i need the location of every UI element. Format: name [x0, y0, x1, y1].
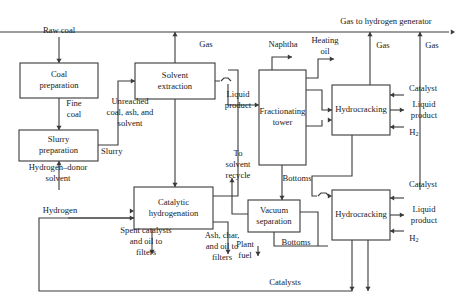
unit-label-hydrocracking-upper: Hydrocracking	[335, 104, 387, 114]
arrow-slurry-in	[131, 78, 135, 83]
arrow-heating-oil	[330, 56, 334, 61]
arrow-fine-coal	[56, 126, 61, 130]
arrow-lower-hc-in-left	[328, 193, 332, 198]
arrow-catalyst-lower	[390, 195, 394, 200]
unit-fractionating-tower: Fractionatingtower	[259, 70, 306, 165]
arrow-hydrogen-in	[130, 215, 134, 220]
stream-label-gas-lower-hydrocracker: Gas	[425, 40, 439, 50]
arrow-catalysts-down-2	[349, 287, 354, 291]
stream-label-ash-char-oil: Ash, char,and oil tofilters	[205, 230, 240, 262]
connector-upper-hc-bottom-down	[312, 135, 352, 196]
unit-vacuum-separation: Vacuumseparation	[248, 200, 300, 232]
connector-tower-side-to-upper-hc	[306, 90, 332, 110]
stream-label-h2-upper: H2	[409, 127, 418, 137]
arrow-liquid-upper	[400, 107, 404, 112]
stream-label-hydrogen: Hydrogen	[43, 205, 78, 215]
arrow-upper-hc-in-low	[328, 117, 332, 122]
arrow-gas-upper-hc	[367, 32, 372, 36]
connector-tower-heating-oil-out	[306, 59, 334, 78]
stream-label-plant-fuel: Plantfuel	[236, 238, 254, 259]
stream-label-catalyst-lower: Catalyst	[409, 179, 438, 189]
arrow-h2-upper	[390, 124, 394, 129]
arrow-plant-fuel	[255, 252, 260, 256]
arrow-liquid-to-tower	[255, 102, 259, 107]
arrow-to-hydrogenation	[172, 183, 177, 187]
stream-label-heating-oil: Heatingoil	[311, 34, 339, 55]
unit-catalytic-hydrogenation: Catalytichydrogenation	[134, 187, 213, 229]
unit-slurry-preparation: Slurrypreparation	[19, 130, 98, 161]
unit-solvent-extraction: Solventextraction	[135, 63, 215, 99]
stream-label-gas-upper-hydrocracker: Gas	[376, 40, 390, 50]
arrow-naphtha	[288, 54, 292, 59]
stream-label-unreached-coal-ash-solvent: Unreachedcoal, ash, andsolvent	[107, 96, 154, 128]
unit-label-hydrocracking-lower: Hydrocracking	[335, 209, 387, 219]
stream-label-liquid-product-lower: Liquidproduct	[411, 203, 438, 224]
connector-tower-naphtha-out	[272, 57, 292, 70]
flow-diagram-canvas: CoalpreparationSlurrypreparationSolvente…	[0, 0, 465, 304]
stream-label-liquid-product-upper: Liquidproduct	[411, 98, 438, 119]
arrow-catalysts-down	[365, 287, 370, 291]
stream-label-catalysts-bus: Catalysts	[269, 277, 301, 287]
stream-label-gas-solvent-extraction: Gas	[199, 39, 213, 49]
arrow-hydrogen-donor-in	[130, 208, 134, 213]
stream-label-h2-lower: H2	[409, 233, 418, 243]
stream-label-gas-to-hydrogen-generator: Gas to hydrogen generator	[340, 16, 432, 26]
arrow-upper-hc-in-left	[328, 107, 332, 112]
process-flow-diagram: CoalpreparationSlurrypreparationSolvente…	[0, 0, 465, 304]
unit-label-vacuum-separation: Vacuumseparation	[256, 204, 292, 225]
stream-label-spent-catalysts: Spent catalystsand oil tofilters	[120, 225, 172, 257]
stream-label-naphtha: Naphtha	[268, 39, 297, 49]
stream-label-raw-coal: Raw coal	[43, 25, 76, 35]
arrow-gas-bus-out	[451, 29, 455, 34]
stream-label-to-solvent-recycle: Tosolventrecycle	[226, 148, 251, 180]
stream-label-fine-coal: Finecoal	[66, 97, 81, 118]
arrowhead-layer	[56, 29, 455, 291]
arrow-tower-bottoms	[279, 196, 284, 200]
arrow-gas-lower-hc	[417, 32, 422, 36]
arrow-gas-extraction	[172, 32, 177, 36]
stream-label-bottoms-vacuum: Bottoms	[281, 237, 311, 247]
stream-label-catalyst-upper: Catalyst	[409, 83, 438, 93]
unit-hydrocracking-lower: Hydrocracking	[332, 190, 390, 240]
unit-hydrocracking-upper: Hydrocracking	[332, 85, 390, 135]
arrow-h2-lower	[390, 228, 394, 233]
arrow-liquid-lower	[400, 212, 404, 217]
stream-label-bottoms-tower: Bottoms	[282, 173, 312, 183]
unit-label-solvent-extraction: Solventextraction	[158, 69, 193, 90]
arrow-raw-coal	[56, 59, 61, 63]
arrow-catalyst-upper	[390, 92, 394, 97]
stream-label-liquid-product-extract: Liquidproduct	[225, 88, 252, 109]
stream-label-hydrogen-donor-solvent: Hydrogen–donorsolvent	[29, 161, 88, 182]
unit-coal-preparation: Coalpreparation	[20, 63, 98, 98]
stream-label-slurry: Slurry	[101, 146, 123, 156]
